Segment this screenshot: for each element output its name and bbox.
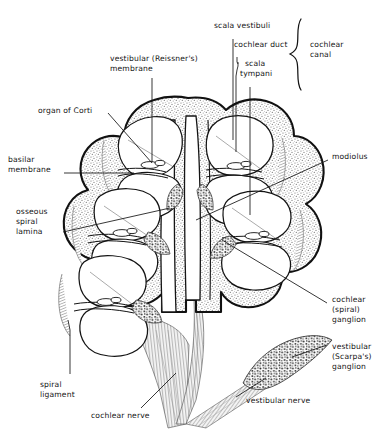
label-spiral-ligament-line2: ligament: [40, 390, 75, 400]
label-scala-tympani-line1: scala: [245, 59, 265, 69]
label-cochlear-nerve: cochlear nerve: [91, 411, 150, 421]
label-organ-of-corti: organ of Corti: [38, 106, 92, 116]
cochlea-cross-section-figure: scala vestibuli cochlear duct scala tymp…: [0, 0, 377, 432]
label-osseous-spiral-lamina-line3: lamina: [16, 227, 43, 237]
label-vestibular-nerve: vestibular nerve: [246, 396, 310, 406]
cochlear-canal-brace: [290, 19, 301, 90]
label-scala-tympani-line2: tympani: [240, 69, 272, 79]
label-scala-vestibuli: scala vestibuli: [214, 21, 270, 31]
label-vestibular-ganglion-line3: ganglion: [332, 362, 366, 372]
label-cochlear-canal-line2: canal: [310, 50, 331, 60]
label-cochlear-canal-line1: cochlear: [310, 40, 344, 50]
vestibular-scarpas-ganglion: [243, 336, 332, 390]
label-spiral-ligament-line1: spiral: [40, 380, 62, 390]
cochlea-diagram-svg: [0, 0, 377, 432]
label-modiolus: modiolus: [332, 152, 368, 162]
label-cochlear-duct: cochlear duct: [234, 40, 288, 50]
label-cochlear-ganglion-line2: (spiral): [332, 305, 360, 315]
label-vestibular-membrane-line1: vestibular (Reissner's): [110, 54, 198, 64]
label-basilar-membrane-line1: basilar: [8, 155, 35, 165]
label-osseous-spiral-lamina-line1: osseous: [16, 207, 48, 217]
label-vestibular-membrane-line2: membrane: [110, 64, 153, 74]
label-osseous-spiral-lamina-line2: spiral: [16, 217, 38, 227]
label-cochlear-ganglion-line1: cochlear: [332, 295, 366, 305]
label-basilar-membrane-line2: membrane: [8, 165, 51, 175]
label-vestibular-ganglion-line1: vestibular: [332, 342, 371, 352]
label-cochlear-ganglion-line3: ganglion: [332, 315, 366, 325]
label-vestibular-ganglion-line2: (Scarpa's): [332, 352, 372, 362]
